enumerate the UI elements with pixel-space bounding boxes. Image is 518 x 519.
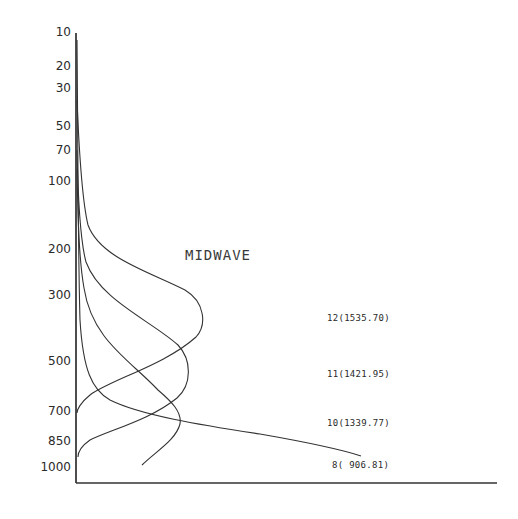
curve-channel-10 xyxy=(77,170,180,465)
y-tick-200: 200 xyxy=(27,242,71,256)
chart-title: MIDWAVE xyxy=(185,247,251,263)
legend-channel-10: 10(1339.77) xyxy=(327,418,390,428)
y-tick-500: 500 xyxy=(27,354,71,368)
y-tick-1000: 1000 xyxy=(27,460,71,474)
y-tick-700: 700 xyxy=(27,404,71,418)
y-tick-850: 850 xyxy=(27,434,71,448)
y-tick-10: 10 xyxy=(27,25,71,39)
y-tick-50: 50 xyxy=(27,119,71,133)
legend-channel-11: 11(1421.95) xyxy=(327,369,390,379)
y-tick-300: 300 xyxy=(27,288,71,302)
legend-channel-12: 12(1535.70) xyxy=(327,313,390,323)
y-tick-30: 30 xyxy=(27,81,71,95)
curve-channel-11 xyxy=(77,150,188,457)
curve-channel-12 xyxy=(77,100,203,413)
legend-channel-8: 8( 906.81) xyxy=(332,460,389,470)
y-tick-70: 70 xyxy=(27,143,71,157)
y-tick-100: 100 xyxy=(27,174,71,188)
y-tick-20: 20 xyxy=(27,59,71,73)
weighting-function-chart xyxy=(0,0,518,519)
